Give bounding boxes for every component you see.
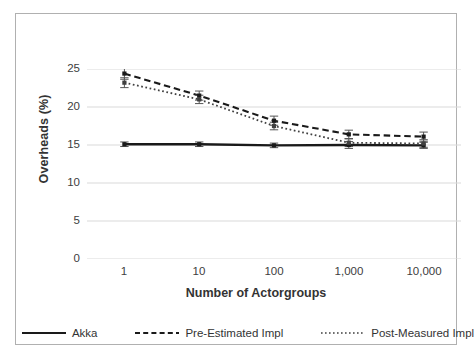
x-axis-tick-labels: 1 10 100 1,000 10,000	[87, 266, 461, 284]
gridlines	[87, 69, 461, 259]
y-tick-10: 10	[40, 177, 80, 189]
data-point-marker	[122, 71, 126, 75]
chart-legend: Akka Pre-Estimated Impl Post-Measured Im…	[38, 320, 458, 346]
legend-label-pre-estimated-impl: Pre-Estimated Impl	[185, 327, 283, 339]
data-point-markers	[122, 71, 425, 147]
x-tick-1: 1	[89, 266, 159, 278]
data-point-marker	[422, 141, 426, 145]
legend-item-post-measured-impl: Post-Measured Impl	[321, 327, 474, 339]
legend-swatch-solid-icon	[22, 328, 66, 338]
x-tick-1000: 1,000	[314, 266, 384, 278]
legend-label-post-measured-impl: Post-Measured Impl	[371, 327, 474, 339]
y-tick-25: 25	[40, 63, 80, 75]
data-point-marker	[272, 119, 276, 123]
x-axis-title: Number of Actorgroups	[56, 286, 456, 300]
y-axis-tick-labels: 25 20 15 10 5 0	[36, 69, 80, 259]
legend-swatch-dashed-icon	[135, 328, 179, 338]
data-point-marker	[197, 94, 201, 98]
legend-item-akka: Akka	[22, 327, 98, 339]
data-point-marker	[197, 97, 201, 101]
data-point-marker	[422, 135, 426, 139]
series-lines	[124, 74, 423, 146]
legend-swatch-dotted-icon	[321, 328, 365, 338]
data-point-marker	[347, 141, 351, 145]
plot-svg	[87, 69, 461, 259]
data-point-marker	[197, 142, 201, 146]
data-point-marker	[122, 142, 126, 146]
x-tick-10000: 10,000	[389, 266, 459, 278]
chart-frame: Overheads (%) 25 20 15 10 5 0 1 10 100 1…	[15, 13, 457, 345]
error-bars	[120, 69, 428, 148]
legend-item-pre-estimated-impl: Pre-Estimated Impl	[135, 327, 283, 339]
x-tick-10: 10	[164, 266, 234, 278]
legend-label-akka: Akka	[72, 327, 98, 339]
data-point-marker	[122, 81, 126, 85]
data-point-marker	[272, 124, 276, 128]
x-tick-100: 100	[239, 266, 309, 278]
y-tick-0: 0	[40, 253, 80, 265]
data-point-marker	[272, 143, 276, 147]
data-point-marker	[347, 132, 351, 136]
plot-area	[87, 69, 461, 259]
y-tick-20: 20	[40, 101, 80, 113]
y-tick-15: 15	[40, 139, 80, 151]
y-tick-5: 5	[40, 215, 80, 227]
